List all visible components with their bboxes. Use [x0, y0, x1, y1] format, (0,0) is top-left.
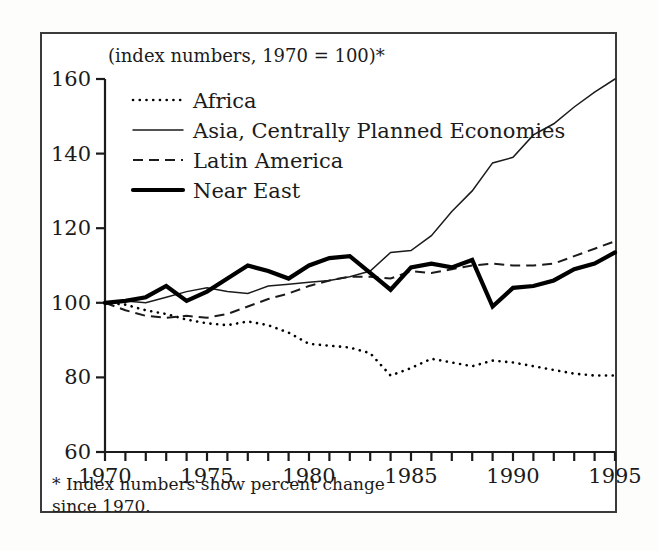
y-tick-label: 100 — [51, 291, 91, 315]
figure-container: (index numbers, 1970 = 100)*608010012014… — [0, 0, 658, 551]
y-tick-label: 160 — [51, 67, 91, 91]
chart-subtitle: (index numbers, 1970 = 100)* — [108, 45, 385, 66]
y-tick-label: 60 — [64, 440, 91, 464]
series-line-near-east — [105, 252, 615, 306]
x-tick-label: 1995 — [588, 464, 641, 488]
legend-label-2[interactable]: Latin America — [193, 149, 343, 173]
y-tick-label: 140 — [51, 142, 91, 166]
legend-label-3[interactable]: Near East — [193, 179, 301, 203]
series-line-latin-america — [105, 241, 615, 317]
series-line-africa — [105, 303, 615, 376]
y-tick-label: 80 — [64, 365, 91, 389]
footnote-line-2: since 1970. — [52, 496, 151, 516]
x-tick-label: 1990 — [486, 464, 539, 488]
legend-label-1[interactable]: Asia, Centrally Planned Economies — [192, 119, 565, 143]
x-tick-label: 1985 — [384, 464, 437, 488]
y-tick-label: 120 — [51, 216, 91, 240]
legend-label-0[interactable]: Africa — [192, 89, 257, 113]
chart-canvas: (index numbers, 1970 = 100)*608010012014… — [0, 0, 658, 551]
footnote-line-1: * Index numbers show percent change — [52, 474, 385, 494]
